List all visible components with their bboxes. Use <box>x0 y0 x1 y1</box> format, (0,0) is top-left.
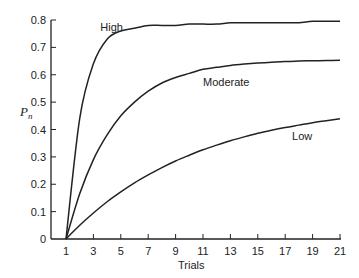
learning-curve-chart: 00.10.20.30.40.50.60.70.8135791113151719… <box>0 0 359 278</box>
x-tick-label: 19 <box>306 245 318 257</box>
y-tick-label: 0.7 <box>31 41 46 53</box>
x-axis-label: Trials <box>178 259 205 271</box>
y-tick-label: 0.5 <box>31 96 46 108</box>
x-tick-label: 11 <box>197 245 208 257</box>
x-tick-label: 3 <box>90 245 96 257</box>
x-tick-label: 1 <box>63 245 69 257</box>
y-tick-label: 0.2 <box>31 178 46 190</box>
label-high: High <box>100 21 123 33</box>
x-tick-label: 21 <box>334 245 346 257</box>
label-low: Low <box>292 130 312 142</box>
curve-labels: HighModerateLow <box>100 21 312 143</box>
x-tick-label: 9 <box>173 245 179 257</box>
x-tick-label: 5 <box>118 245 124 257</box>
label-moderate: Moderate <box>203 76 249 88</box>
y-tick-label: 0.3 <box>31 151 46 163</box>
x-tick-label: 17 <box>279 245 291 257</box>
x-tick-label: 15 <box>252 245 264 257</box>
y-tick-label: 0.6 <box>31 69 46 81</box>
y-tick-label: 0.1 <box>31 206 46 218</box>
y-tick-label: 0.8 <box>31 14 46 26</box>
y-tick-label: 0 <box>40 233 46 245</box>
y-tick-label: 0.4 <box>31 124 46 136</box>
x-tick-label: 13 <box>224 245 236 257</box>
x-tick-label: 7 <box>145 245 151 257</box>
